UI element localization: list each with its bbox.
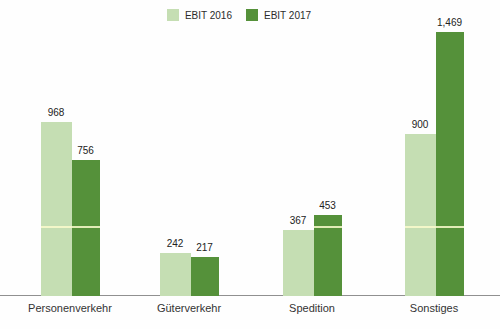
category-label-güterverkehr: Güterverkehr [157,302,221,314]
category-label-spedition: Spedition [289,302,335,314]
bar-spedition-ebit-2016 [283,230,314,296]
bar-value-label: 242 [167,238,184,249]
bar-value-label: 367 [290,215,307,226]
bar-personenverkehr-ebit-2017 [72,160,100,296]
bar-sonstiges-ebit-2016 [405,134,436,296]
bar-güterverkehr-ebit-2016 [160,253,191,296]
scan-fold-line-artifact [405,226,436,228]
category-label-personenverkehr: Personenverkehr [28,302,112,314]
bar-value-label: 453 [319,200,336,211]
bar-personenverkehr-ebit-2016 [41,122,72,296]
ebit-bar-chart: EBIT 2016 EBIT 2017 968756Personenverkeh… [0,0,500,329]
bar-sonstiges-ebit-2017 [436,32,464,296]
bar-value-label: 217 [196,242,213,253]
bar-value-label: 900 [412,119,429,130]
category-label-sonstiges: Sonstiges [410,302,458,314]
scan-fold-line-artifact [41,226,72,228]
bar-value-label: 1,469 [437,17,462,28]
scan-fold-line-artifact [436,226,464,228]
bar-value-label: 756 [77,145,94,156]
scan-fold-line-artifact [72,226,100,228]
bar-güterverkehr-ebit-2017 [191,257,219,296]
bar-value-label: 968 [48,107,65,118]
bar-spedition-ebit-2017 [314,215,342,296]
plot-area: 968756Personenverkehr242217Güterverkehr3… [0,0,500,329]
scan-fold-line-artifact [314,226,342,228]
